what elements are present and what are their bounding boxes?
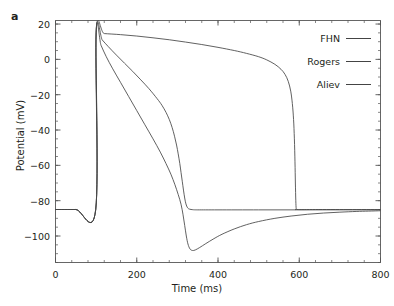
legend-line-sample-fhn	[346, 38, 371, 39]
legend-label-fhn: FHN	[240, 33, 340, 44]
x-tick-label: 400	[209, 269, 227, 280]
y-tick-label: −100	[10, 231, 50, 242]
legend-label-aliev: Aliev	[240, 79, 340, 90]
legend-line-sample-aliev	[346, 84, 371, 85]
y-tick-label: 20	[10, 19, 50, 30]
x-tick-label: 0	[52, 269, 58, 280]
legend-line-sample-rogers	[346, 61, 371, 62]
y-tick-label: −60	[10, 160, 50, 171]
x-tick-label: 800	[371, 269, 389, 280]
series-line-fhn	[56, 20, 381, 223]
figure-panel-a: a Time (ms) Potential (mV) 0200400600800…	[0, 0, 394, 306]
x-tick-label: 600	[290, 269, 308, 280]
legend-label-rogers: Rogers	[240, 56, 340, 67]
chart-canvas	[0, 0, 394, 306]
x-tick-label: 200	[128, 269, 146, 280]
y-tick-label: −80	[10, 195, 50, 206]
y-tick-label: −40	[10, 125, 50, 136]
y-tick-label: 0	[10, 54, 50, 65]
y-tick-label: −20	[10, 89, 50, 100]
x-axis-label: Time (ms)	[0, 283, 394, 294]
